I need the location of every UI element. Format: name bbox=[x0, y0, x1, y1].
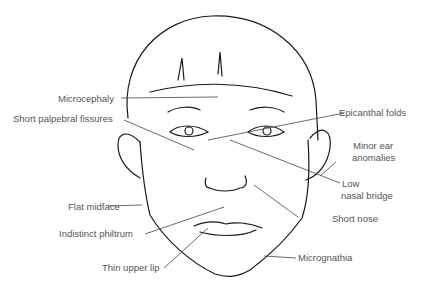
label-indistinct-philtrum: Indistinct philtrum bbox=[59, 228, 133, 239]
upper-lip bbox=[194, 222, 262, 228]
label-short-palpebral-fissures: Short palpebral fissures bbox=[13, 113, 113, 124]
head-outline bbox=[127, 16, 318, 140]
label-minor-ear-anomalies-line1: Minor ear bbox=[353, 140, 393, 151]
label-short-nose: Short nose bbox=[332, 213, 378, 224]
label-low-nasal-bridge-line2: nasal bridge bbox=[341, 190, 393, 201]
label-micrognathia: Micrognathia bbox=[298, 252, 352, 263]
label-thin-upper-lip: Thin upper lip bbox=[102, 262, 160, 273]
label-flat-midface: Flat midface bbox=[68, 201, 120, 212]
left-ear bbox=[118, 134, 140, 178]
label-microcephaly: Microcephaly bbox=[58, 93, 114, 104]
lower-lip bbox=[200, 230, 256, 236]
label-minor-ear-anomalies-line2: anomalies bbox=[352, 152, 395, 163]
hair-fringe bbox=[150, 84, 292, 96]
nose bbox=[205, 176, 246, 191]
label-low-nasal-bridge-line1: Low bbox=[342, 178, 359, 189]
left-eyebrow bbox=[168, 107, 200, 112]
label-epicanthal-folds: Epicanthal folds bbox=[339, 107, 406, 118]
right-eyebrow bbox=[250, 107, 284, 112]
face-outline bbox=[140, 140, 309, 276]
